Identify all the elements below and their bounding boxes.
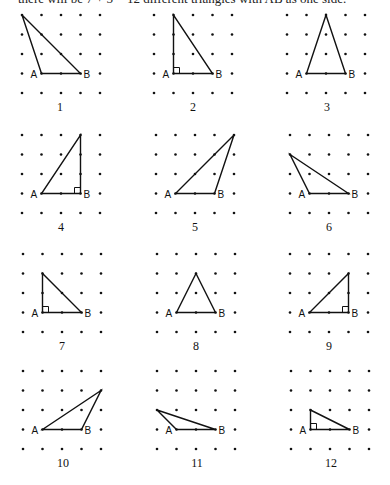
grid-dot (290, 448, 293, 451)
grid-dot (329, 389, 332, 392)
grid-dot (290, 428, 293, 431)
grid-dot (329, 409, 332, 412)
grid-dot (348, 448, 351, 451)
grid-dot (368, 428, 371, 431)
grid-dot (309, 370, 312, 373)
grid-dot (290, 389, 293, 392)
grid-dot (290, 370, 293, 373)
vertex-label-b: B (353, 425, 360, 436)
panel-number: 12 (325, 456, 337, 471)
grid-dot (368, 448, 371, 451)
grid-dot (368, 389, 371, 392)
grid-dot (348, 370, 351, 373)
grid-dot (368, 409, 371, 412)
grid-dot (309, 389, 312, 392)
grid-dot (368, 370, 371, 373)
grid-dot (329, 370, 332, 373)
grid-dot (329, 448, 332, 451)
grid-dot (348, 409, 351, 412)
grid-dot (309, 448, 312, 451)
grid-dot (290, 409, 293, 412)
vertex-label-a: A (300, 425, 307, 436)
triangle-panel-12: AB (0, 0, 390, 485)
grid-dot (348, 389, 351, 392)
